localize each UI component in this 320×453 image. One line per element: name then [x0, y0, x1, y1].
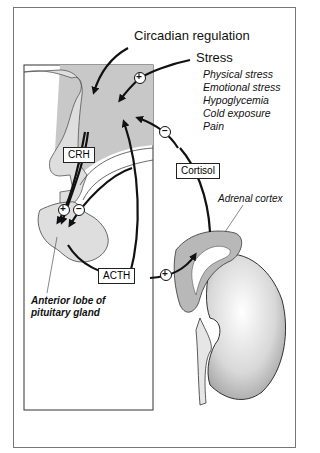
stress-factors-list: Physical stress Emotional stress Hypogly… [203, 68, 281, 133]
cortisol-label: Cortisol [176, 163, 220, 179]
brain-section-box [24, 65, 153, 410]
pituitary-label-line2: pituitary gland [31, 307, 105, 319]
stress-factor: Physical stress [203, 68, 281, 81]
cortisol-minus-sign: − [162, 125, 168, 136]
stress-factor: Cold exposure [203, 107, 281, 120]
crh-label: CRH [63, 147, 95, 163]
crh-plus-sign: + [60, 203, 66, 214]
stress-label: Stress [196, 50, 233, 65]
pituitary-label-line1: Anterior lobe of [31, 295, 105, 307]
circadian-regulation-label: Circadian regulation [134, 28, 250, 43]
stress-factor: Pain [203, 120, 281, 133]
acth-label: ACTH [98, 268, 135, 284]
adrenal-cortex-label: Adrenal cortex [218, 193, 282, 205]
stress-plus-sign: + [136, 71, 142, 82]
acth-plus-sign: + [162, 268, 168, 279]
kidney-adrenal-illustration [174, 205, 285, 405]
cortisol-feedback-line [180, 148, 210, 232]
pituitary-label: Anterior lobe of pituitary gland [31, 295, 105, 319]
stress-factor: Hypoglycemia [203, 94, 281, 107]
stress-factor: Emotional stress [203, 81, 281, 94]
feedback-minus-sign: − [76, 203, 82, 214]
